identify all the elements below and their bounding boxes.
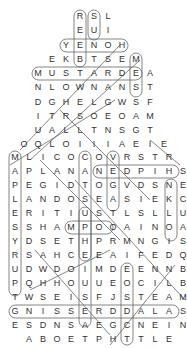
grid-letter[interactable]: N [163, 263, 175, 276]
grid-letter[interactable]: E [51, 235, 63, 248]
grid-letter[interactable]: U [79, 277, 91, 290]
grid-letter[interactable]: S [130, 81, 142, 94]
grid-letter[interactable]: G [107, 319, 119, 332]
grid-letter[interactable]: A [79, 165, 91, 178]
grid-letter[interactable]: D [65, 179, 77, 192]
grid-letter[interactable]: U [79, 207, 91, 220]
grid-letter[interactable]: S [51, 305, 63, 318]
grid-letter[interactable]: S [177, 165, 187, 178]
grid-letter[interactable]: E [93, 193, 105, 206]
grid-letter[interactable]: N [149, 221, 161, 234]
grid-letter[interactable]: P [9, 179, 21, 192]
grid-letter[interactable]: S [23, 319, 35, 332]
grid-letter[interactable]: U [46, 67, 58, 80]
grid-letter[interactable]: L [149, 305, 161, 318]
grid-letter[interactable]: R [102, 67, 114, 80]
grid-letter[interactable]: N [88, 39, 100, 52]
grid-letter[interactable]: E [79, 305, 91, 318]
grid-letter[interactable]: L [149, 207, 161, 220]
grid-letter[interactable]: M [121, 235, 133, 248]
grid-letter[interactable]: O [65, 263, 77, 276]
grid-letter[interactable]: G [149, 235, 161, 248]
grid-letter[interactable]: S [116, 124, 128, 137]
grid-letter[interactable]: S [37, 291, 49, 304]
grid-letter[interactable]: S [149, 179, 161, 192]
grid-letter[interactable]: H [79, 235, 91, 248]
grid-letter[interactable]: N [93, 165, 105, 178]
grid-letter[interactable]: U [32, 124, 44, 137]
grid-letter[interactable]: D [23, 263, 35, 276]
grid-letter[interactable]: S [79, 291, 91, 304]
grid-letter[interactable]: S [65, 319, 77, 332]
grid-letter[interactable]: W [116, 96, 128, 109]
grid-letter[interactable]: S [65, 305, 77, 318]
grid-letter[interactable]: K [60, 53, 72, 66]
grid-letter[interactable]: S [37, 235, 49, 248]
grid-letter[interactable]: W [74, 81, 86, 94]
grid-letter[interactable]: A [177, 221, 187, 234]
grid-letter[interactable]: A [9, 165, 21, 178]
grid-letter[interactable]: R [163, 151, 175, 164]
grid-letter[interactable]: E [107, 277, 119, 290]
grid-letter[interactable]: B [37, 333, 49, 346]
grid-letter[interactable]: B [74, 53, 86, 66]
grid-letter[interactable]: S [23, 249, 35, 262]
grid-letter[interactable]: F [135, 249, 147, 262]
grid-letter[interactable]: D [107, 263, 119, 276]
grid-letter[interactable]: N [149, 263, 161, 276]
grid-letter[interactable]: I [135, 221, 147, 234]
grid-letter[interactable]: F [144, 96, 156, 109]
grid-letter[interactable]: E [65, 333, 77, 346]
grid-letter[interactable]: O [107, 221, 119, 234]
grid-letter[interactable]: N [135, 319, 147, 332]
grid-letter[interactable]: T [9, 291, 21, 304]
grid-letter[interactable]: D [51, 263, 63, 276]
grid-letter[interactable]: U [177, 207, 187, 220]
grid-letter[interactable]: S [74, 110, 86, 123]
grid-letter[interactable]: S [121, 193, 133, 206]
grid-letter[interactable]: E [9, 207, 21, 220]
grid-letter[interactable]: I [65, 291, 77, 304]
grid-letter[interactable]: W [23, 291, 35, 304]
grid-letter[interactable]: O [60, 81, 72, 94]
grid-letter[interactable]: T [135, 333, 147, 346]
grid-letter[interactable]: M [130, 53, 142, 66]
grid-letter[interactable]: N [163, 179, 175, 192]
grid-letter[interactable]: U [93, 277, 105, 290]
grid-letter[interactable]: R [107, 235, 119, 248]
grid-letter[interactable]: S [177, 235, 187, 248]
grid-letter[interactable]: A [144, 67, 156, 80]
grid-letter[interactable]: O [163, 221, 175, 234]
grid-letter[interactable]: D [107, 305, 119, 318]
grid-letter[interactable]: H [116, 39, 128, 52]
grid-letter[interactable]: M [9, 151, 21, 164]
grid-letter[interactable]: V [107, 151, 119, 164]
grid-letter[interactable]: C [79, 151, 91, 164]
grid-letter[interactable]: S [102, 53, 114, 66]
grid-letter[interactable]: H [60, 96, 72, 109]
grid-letter[interactable]: D [32, 96, 44, 109]
grid-letter[interactable]: S [9, 221, 21, 234]
grid-letter[interactable]: D [121, 165, 133, 178]
grid-letter[interactable]: P [79, 221, 91, 234]
grid-letter[interactable]: L [60, 124, 72, 137]
grid-letter[interactable]: I [37, 207, 49, 220]
grid-letter[interactable]: E [74, 96, 86, 109]
grid-letter[interactable]: O [65, 193, 77, 206]
grid-letter[interactable]: A [135, 305, 147, 318]
grid-letter[interactable]: P [135, 165, 147, 178]
grid-letter[interactable]: T [121, 333, 133, 346]
grid-letter[interactable]: I [37, 305, 49, 318]
grid-letter[interactable]: L [9, 193, 21, 206]
grid-letter[interactable]: H [51, 249, 63, 262]
grid-letter[interactable]: S [135, 151, 147, 164]
grid-letter[interactable]: A [116, 138, 128, 151]
grid-letter[interactable]: E [130, 67, 142, 80]
grid-letter[interactable]: T [144, 124, 156, 137]
grid-letter[interactable]: E [158, 138, 170, 151]
grid-letter[interactable]: Y [9, 235, 21, 248]
grid-letter[interactable]: F [93, 291, 105, 304]
grid-letter[interactable]: T [135, 291, 147, 304]
grid-letter[interactable]: Q [32, 138, 44, 151]
grid-letter[interactable]: I [149, 277, 161, 290]
